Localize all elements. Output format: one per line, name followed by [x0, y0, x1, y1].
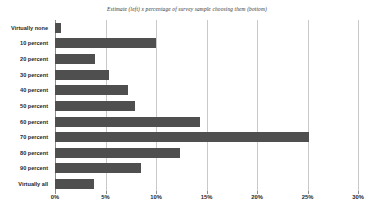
bar — [55, 38, 156, 48]
x-axis-label: 15% — [201, 194, 213, 200]
bar-row — [55, 67, 358, 83]
gridline-30% — [358, 20, 359, 192]
x-axis-label: 20% — [251, 194, 263, 200]
bar — [55, 101, 135, 111]
bars-layer — [55, 20, 358, 192]
y-axis-label: 80 percent — [0, 145, 51, 161]
bar-row — [55, 176, 358, 192]
y-axis-label: Virtually all — [0, 176, 51, 192]
bar-row — [55, 161, 358, 177]
bar-row — [55, 129, 358, 145]
y-axis-label: 20 percent — [0, 51, 51, 67]
bar — [55, 85, 128, 95]
bar — [55, 23, 61, 33]
y-axis-label: 50 percent — [0, 98, 51, 114]
x-axis-tick-labels: 0%5%10%15%20%25%30% — [55, 194, 358, 206]
bar-row — [55, 51, 358, 67]
bar — [55, 54, 95, 64]
bar-row — [55, 98, 358, 114]
y-axis-label: Virtually none — [0, 20, 51, 36]
bar-row — [55, 83, 358, 99]
bar — [55, 179, 94, 189]
y-axis-label: 90 percent — [0, 161, 51, 177]
bar — [55, 132, 309, 142]
y-axis-label: 10 percent — [0, 36, 51, 52]
y-axis-label: 60 percent — [0, 114, 51, 130]
bar — [55, 117, 200, 127]
x-axis-label: 30% — [352, 194, 364, 200]
plot-area — [55, 20, 358, 192]
bar-chart: Estimate (left) x percentage of survey s… — [0, 0, 374, 219]
chart-title: Estimate (left) x percentage of survey s… — [0, 6, 374, 13]
x-axis-label: 0% — [51, 194, 59, 200]
bar-row — [55, 145, 358, 161]
bar — [55, 70, 109, 80]
y-axis-label: 40 percent — [0, 83, 51, 99]
bar-row — [55, 20, 358, 36]
bar-row — [55, 36, 358, 52]
y-axis-label: 70 percent — [0, 129, 51, 145]
bar — [55, 163, 141, 173]
bar — [55, 148, 180, 158]
x-axis-label: 25% — [302, 194, 314, 200]
bar-row — [55, 114, 358, 130]
y-axis-label: 30 percent — [0, 67, 51, 83]
x-axis-label: 5% — [101, 194, 109, 200]
y-axis-category-labels: Virtually none10 percent20 percent30 per… — [0, 20, 51, 192]
x-axis-label: 10% — [150, 194, 162, 200]
